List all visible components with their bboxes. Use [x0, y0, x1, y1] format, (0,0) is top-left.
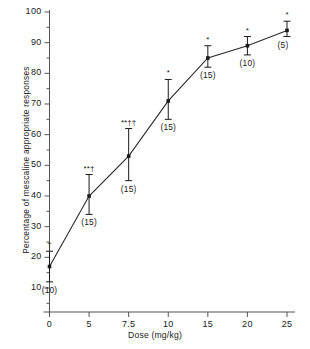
- significance-marker: **††: [107, 118, 151, 127]
- sample-size-label: (10): [30, 285, 70, 295]
- x-tick-label: 5: [69, 319, 109, 329]
- figure: Percentage of mescaline appropriate resp…: [0, 0, 310, 349]
- y-tick-label: 50: [16, 159, 42, 169]
- sample-size-label: (10): [227, 58, 267, 68]
- x-tick-label: 10: [148, 319, 188, 329]
- x-tick-label: 15: [188, 319, 228, 329]
- x-tick-label: 7.5: [109, 319, 149, 329]
- sample-size-label: (5): [263, 40, 303, 50]
- y-tick-label: 40: [16, 190, 42, 200]
- x-tick-label: 25: [267, 319, 307, 329]
- significance-marker: *: [265, 10, 309, 19]
- sample-size-label: (15): [188, 70, 228, 80]
- y-tick-label: 80: [16, 67, 42, 77]
- significance-marker: *: [186, 35, 230, 44]
- significance-marker: *: [146, 68, 190, 77]
- sample-size-label: (15): [109, 184, 149, 194]
- sample-size-label: (15): [148, 122, 188, 132]
- significance-marker: †: [28, 240, 72, 249]
- y-tick-label: 20: [16, 251, 42, 261]
- significance-marker: *: [225, 26, 269, 35]
- significance-marker: **†: [67, 164, 111, 173]
- x-axis-title: Dose (mg/kg): [0, 330, 310, 340]
- x-tick-label: 20: [227, 319, 267, 329]
- y-tick-label: 90: [16, 37, 42, 47]
- y-tick-label: 100: [16, 6, 42, 16]
- y-tick-label: 70: [16, 98, 42, 108]
- sample-size-label: (15): [69, 217, 109, 227]
- y-tick-label: 30: [16, 221, 42, 231]
- y-tick-label: 60: [16, 129, 42, 139]
- chart-canvas: [0, 0, 310, 349]
- x-tick-label: 0: [30, 319, 70, 329]
